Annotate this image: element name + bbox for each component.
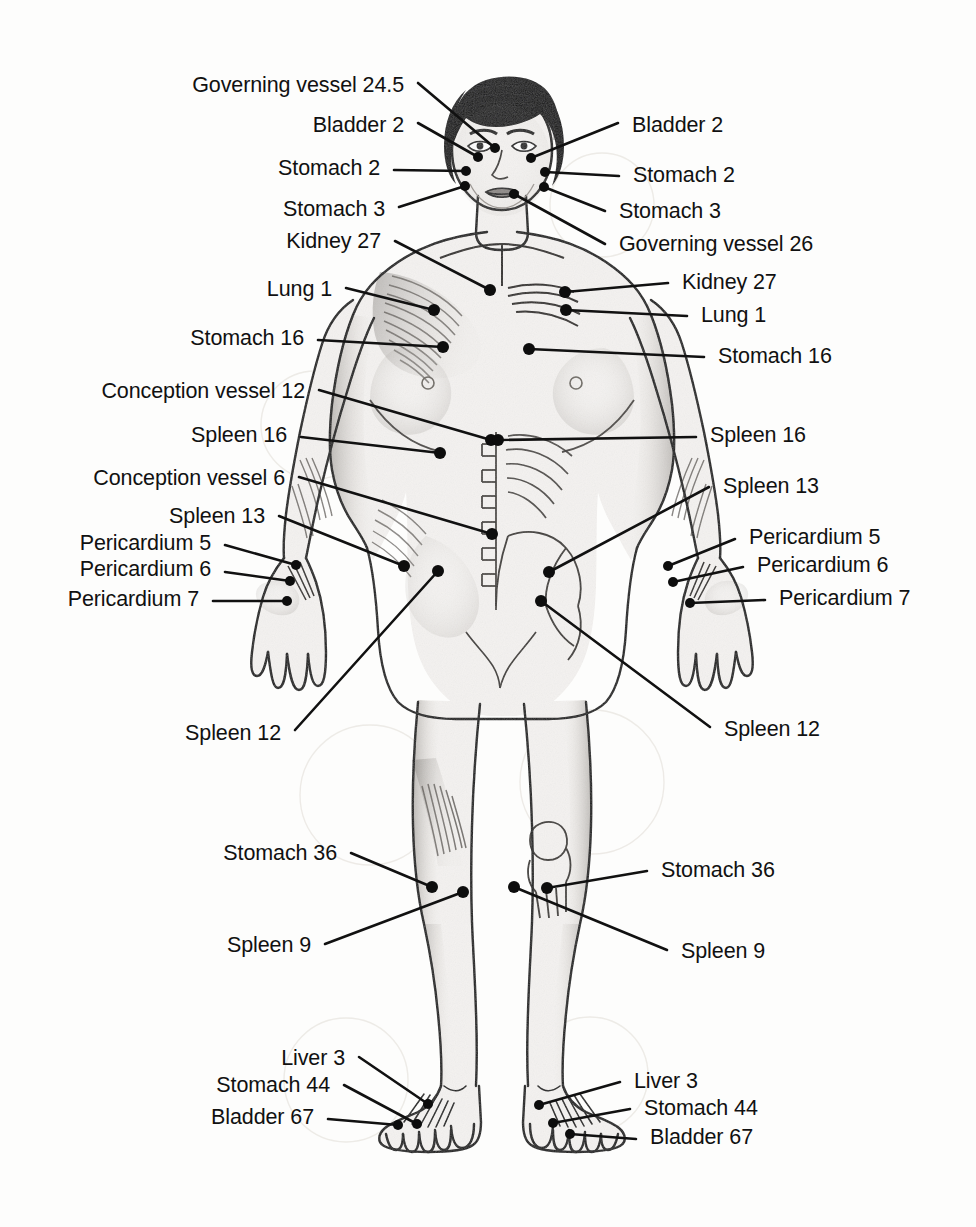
acupoint-label-st2-l: Stomach 2 xyxy=(0,158,380,180)
acupoint-label-st36-r: Stomach 36 xyxy=(661,860,775,882)
acupoint-label-cv12-l: Conception vessel 12 xyxy=(0,381,305,403)
acupoint-label-pc6-r: Pericardium 6 xyxy=(757,555,888,577)
acupoint-label-st44-r: Stomach 44 xyxy=(644,1098,758,1120)
acupoint-label-sp13-r: Spleen 13 xyxy=(723,476,819,498)
acupoint-label-ki27-l: Kidney 27 xyxy=(0,231,381,253)
acupoint-label-pc5-r: Pericardium 5 xyxy=(749,527,880,549)
acupuncture-diagram: Governing vessel 24.5Bladder 2Stomach 2S… xyxy=(0,0,976,1227)
acupoint-label-cv6-l: Conception vessel 6 xyxy=(0,468,285,490)
acupoint-label-st36-l: Stomach 36 xyxy=(0,843,337,865)
acupoint-label-sp12-l: Spleen 12 xyxy=(0,723,281,745)
acupoint-label-st16-r: Stomach 16 xyxy=(718,346,832,368)
acupoint-label-sp12-r: Spleen 12 xyxy=(724,719,820,741)
acupoint-label-sp9-l: Spleen 9 xyxy=(0,935,311,957)
acupoint-label-bl67-l: Bladder 67 xyxy=(0,1107,314,1129)
acupoint-label-pc5-l: Pericardium 5 xyxy=(0,533,211,555)
acupoint-label-st2-r: Stomach 2 xyxy=(633,165,735,187)
acupoint-label-gv245-l: Governing vessel 24.5 xyxy=(0,75,404,97)
acupoint-label-st16-l: Stomach 16 xyxy=(0,328,304,350)
acupoint-label-st3-r: Stomach 3 xyxy=(619,201,721,223)
acupoint-label-ki27-r: Kidney 27 xyxy=(682,272,777,294)
acupoint-label-sp16-r: Spleen 16 xyxy=(710,425,806,447)
acupoint-label-st3-l: Stomach 3 xyxy=(0,199,385,221)
anatomical-figure xyxy=(0,0,976,1227)
acupoint-label-lu1-r: Lung 1 xyxy=(701,305,766,327)
acupoint-label-pc7-r: Pericardium 7 xyxy=(779,588,910,610)
acupoint-label-gv26-r: Governing vessel 26 xyxy=(619,234,813,256)
head-and-face xyxy=(444,76,564,216)
acupoint-label-bl2-l: Bladder 2 xyxy=(0,115,404,137)
acupoint-label-pc7-l: Pericardium 7 xyxy=(0,589,199,611)
acupoint-label-bl2-r: Bladder 2 xyxy=(632,115,723,137)
acupoint-label-lu1-l: Lung 1 xyxy=(0,279,332,301)
acupoint-label-pc6-l: Pericardium 6 xyxy=(0,559,211,581)
acupoint-label-sp16-l: Spleen 16 xyxy=(0,425,287,447)
acupoint-label-bl67-r: Bladder 67 xyxy=(650,1127,753,1149)
acupoint-label-lv3-l: Liver 3 xyxy=(0,1048,345,1070)
acupoint-label-st44-l: Stomach 44 xyxy=(0,1075,330,1097)
acupoint-label-sp9-r: Spleen 9 xyxy=(681,941,765,963)
acupoint-label-sp13-l: Spleen 13 xyxy=(0,506,265,528)
acupoint-label-lv3-r: Liver 3 xyxy=(634,1071,698,1093)
